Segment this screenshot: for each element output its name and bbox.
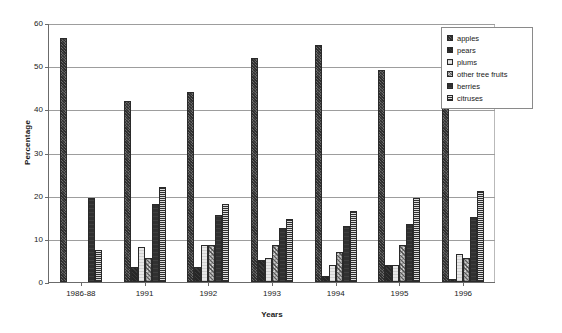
plot-area: 0102030405060 1986-881991199219931994199… (48, 24, 495, 283)
bar-berries (215, 215, 222, 282)
bar-other-tree-fruits (399, 245, 406, 282)
bar-berries (470, 217, 477, 282)
y-axis-tick-label: 30 (21, 149, 43, 158)
x-axis-tick-label: 1993 (240, 289, 304, 298)
bar-apples (187, 92, 194, 282)
legend-label: berries (457, 82, 480, 91)
bar-group: 1991 (113, 24, 177, 282)
x-axis-tickmark (463, 282, 464, 286)
y-axis-tick-label: 50 (21, 62, 43, 71)
legend-label: plums (457, 58, 477, 67)
legend-label: citruses (457, 94, 483, 103)
x-axis-tick-label: 1992 (176, 289, 240, 298)
bar-pears (385, 265, 392, 282)
x-axis-tickmark (272, 282, 273, 286)
legend-item-apples[interactable]: apples (447, 32, 528, 44)
bar-chart-figure: Percentage 0102030405060 1986-8819911992… (0, 0, 562, 333)
x-axis-tickmark (208, 282, 209, 286)
legend-label: other tree fruits (457, 70, 507, 79)
bar-apples (60, 38, 67, 282)
x-axis-tickmark (81, 282, 82, 286)
bar-pears (449, 279, 456, 282)
x-axis-tick-label: 1994 (304, 289, 368, 298)
bar-berries (343, 226, 350, 282)
legend-swatch-pears (447, 47, 453, 53)
legend-item-citruses[interactable]: citruses (447, 92, 528, 104)
bar-berries (88, 198, 95, 282)
bar-other-tree-fruits (272, 245, 279, 282)
y-axis-tick-label: 10 (21, 235, 43, 244)
bar-group: 1994 (304, 24, 368, 282)
bar-plums (201, 245, 208, 282)
bar-group: 1986-88 (49, 24, 113, 282)
bar-pears (131, 267, 138, 282)
bar-apples (378, 70, 385, 282)
bar-citruses (95, 250, 102, 282)
y-axis-tick-label: 20 (21, 192, 43, 201)
chart-legend: applespearsplumsother tree fruitsberries… (441, 27, 533, 109)
y-axis-tick-label: 0 (21, 278, 43, 287)
legend-item-plums[interactable]: plums (447, 56, 528, 68)
bar-plums (265, 258, 272, 282)
bar-pears (322, 276, 329, 282)
bar-group: 1995 (368, 24, 432, 282)
x-axis-tickmark (399, 282, 400, 286)
x-axis-tick-label: 1995 (368, 289, 432, 298)
bar-plums (138, 247, 145, 282)
bar-apples (251, 58, 258, 282)
legend-item-berries[interactable]: berries (447, 80, 528, 92)
legend-label: apples (457, 34, 479, 43)
bar-other-tree-fruits (336, 252, 343, 282)
bar-apples (315, 45, 322, 282)
bar-plums (329, 265, 336, 282)
x-axis-tickmark (145, 282, 146, 286)
bar-berries (152, 204, 159, 282)
bar-citruses (477, 191, 484, 282)
legend-swatch-apples (447, 35, 453, 41)
bar-citruses (222, 204, 229, 282)
legend-item-other-tree-fruits[interactable]: other tree fruits (447, 68, 528, 80)
bar-citruses (286, 219, 293, 282)
x-axis-tick-label: 1991 (113, 289, 177, 298)
x-axis-tick-label: 1996 (431, 289, 495, 298)
bar-apples (124, 101, 131, 282)
bar-group: 1992 (176, 24, 240, 282)
legend-swatch-berries (447, 83, 453, 89)
y-axis-tickmark (45, 283, 49, 284)
x-axis-tickmark (336, 282, 337, 286)
x-axis-tick-label: 1986-88 (49, 289, 113, 298)
bar-pears (194, 267, 201, 282)
bar-other-tree-fruits (208, 245, 215, 282)
bar-plums (392, 265, 399, 282)
legend-swatch-other-tree-fruits (447, 71, 453, 77)
bar-other-tree-fruits (463, 258, 470, 282)
legend-swatch-plums (447, 59, 453, 65)
bar-plums (456, 254, 463, 282)
legend-swatch-citruses (447, 95, 453, 101)
y-axis-tick-label: 60 (21, 19, 43, 28)
bar-citruses (159, 187, 166, 282)
bar-groups: 1986-88199119921993199419951996 (49, 24, 495, 282)
bar-berries (279, 228, 286, 282)
bar-pears (258, 260, 265, 282)
legend-label: pears (457, 46, 476, 55)
y-axis-tick-label: 40 (21, 105, 43, 114)
bar-berries (406, 224, 413, 282)
bar-group: 1993 (240, 24, 304, 282)
bar-citruses (350, 211, 357, 282)
bar-other-tree-fruits (145, 258, 152, 282)
bar-citruses (413, 198, 420, 282)
legend-item-pears[interactable]: pears (447, 44, 528, 56)
x-axis-title: Years (48, 310, 496, 319)
